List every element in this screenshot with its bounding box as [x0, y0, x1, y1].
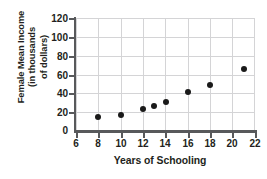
y-tick-label-40: 40 — [38, 89, 68, 99]
y-tick-label-20: 20 — [38, 108, 68, 118]
data-point — [163, 99, 169, 105]
y-axis-line — [74, 17, 76, 132]
x-tick-label-16: 16 — [177, 139, 199, 149]
x-tick-label-22: 22 — [244, 139, 266, 149]
data-point — [118, 112, 124, 118]
data-point — [185, 89, 191, 95]
x-tick-label-8: 8 — [87, 139, 109, 149]
scatter-chart-figure: Female Mean Income (in thousands of doll… — [0, 0, 267, 179]
y-tick-label-0: 0 — [38, 126, 68, 136]
gridline-h-120 — [76, 18, 255, 19]
x-tick-label-6: 6 — [65, 139, 87, 149]
gridline-h-40 — [76, 93, 255, 94]
data-point — [151, 103, 157, 109]
y-tick-label-60: 60 — [38, 71, 68, 81]
y-axis-title-line-2: (in thousands — [26, 27, 38, 87]
y-tick-label-80: 80 — [38, 52, 68, 62]
x-tick-label-18: 18 — [199, 139, 221, 149]
gridline-h-80 — [76, 56, 255, 57]
x-tick-label-14: 14 — [154, 139, 176, 149]
data-point — [241, 66, 247, 72]
gridline-h-100 — [76, 37, 255, 38]
data-point — [207, 82, 213, 88]
x-axis-title: Years of Schooling — [60, 155, 260, 166]
plot-area — [76, 18, 255, 131]
x-tick-label-20: 20 — [221, 139, 243, 149]
data-point — [95, 114, 101, 120]
y-tick-label-120: 120 — [38, 14, 68, 24]
gridline-h-60 — [76, 75, 255, 76]
x-tick-label-10: 10 — [110, 139, 132, 149]
y-tick-label-100: 100 — [38, 33, 68, 43]
gridline-h-20 — [76, 112, 255, 113]
y-axis-title-line-1: Female Mean Income — [15, 11, 27, 104]
x-tick-label-12: 12 — [132, 139, 154, 149]
